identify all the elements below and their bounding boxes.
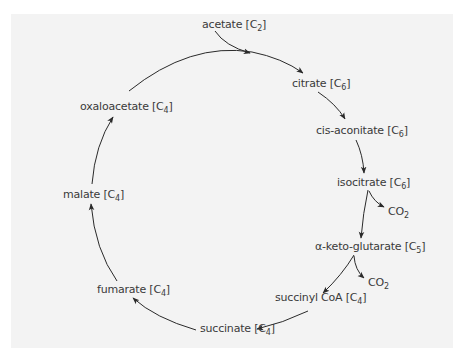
byproduct-co2-2: CO2 [368, 276, 389, 290]
node-name: cis-aconitate [316, 124, 384, 137]
node-cis-aconitate: cis-aconitate [C6] [316, 124, 408, 138]
node-name: isocitrate [337, 176, 386, 189]
arrow-succinate-to-fumarate [133, 298, 196, 330]
carbon-count: [C4] [254, 322, 275, 335]
node-name: oxaloacetate [80, 100, 149, 113]
node-acetate: acetate [C2] [202, 18, 266, 32]
arrow-oxaloacetate-to-citrate [129, 50, 303, 91]
arrow-malate-to-oxaloacetate [92, 117, 113, 184]
carbon-count: [C4] [149, 283, 170, 296]
carbon-count: [C5] [405, 240, 426, 253]
node-citrate: citrate [C6] [292, 77, 350, 91]
arrow-isocitrate-co2 [369, 191, 384, 207]
arrow-isocitrate-to-akg [361, 190, 368, 238]
carbon-count: [C2] [246, 18, 267, 31]
carbon-count: [C6] [390, 176, 411, 189]
node-name: succinate [200, 322, 251, 335]
node-name: citrate [292, 77, 326, 90]
node-succinate: succinate [C4] [200, 322, 275, 336]
node-name: fumarate [97, 283, 146, 296]
arrow-fumarate-to-malate [91, 204, 117, 281]
carbon-count: [C4] [152, 100, 173, 113]
arrow-akg-to-succinyl-coa [323, 255, 354, 293]
arrow-cis-aconitate-to-isocitrate [356, 140, 364, 173]
byproduct-co2-1: CO2 [388, 205, 409, 219]
carbon-count: [C6] [330, 77, 351, 90]
node-name: α-keto-glutarate [315, 240, 401, 253]
carbon-count: [C4] [103, 188, 124, 201]
node-oxaloacetate: oxaloacetate [C4] [80, 100, 173, 114]
arrow-akg-co2 [354, 256, 364, 278]
node-succinyl-coa: succinyl CoA [C4] [275, 291, 366, 305]
arrow-acetate-in [215, 31, 250, 53]
node-name: acetate [202, 18, 242, 31]
arrow-citrate-to-cis-aconitate [318, 92, 345, 119]
node-isocitrate: isocitrate [C6] [337, 176, 410, 190]
node-name: malate [63, 188, 100, 201]
carbon-count: [C4] [346, 291, 367, 304]
node-malate: malate [C4] [63, 188, 124, 202]
carbon-count: [C6] [387, 124, 408, 137]
node-fumarate: fumarate [C4] [97, 283, 170, 297]
node-name: succinyl CoA [275, 291, 342, 304]
node-alpha-keto-glutarate: α-keto-glutarate [C5] [315, 240, 425, 254]
